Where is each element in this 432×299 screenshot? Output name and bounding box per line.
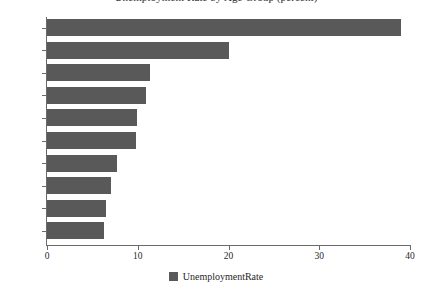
y-tick-mark [42, 231, 47, 232]
x-tick-mark [319, 246, 320, 250]
chart-legend: UnemploymentRate [0, 271, 432, 282]
legend-swatch-icon [169, 272, 178, 281]
bar-chart: Unemployment Rate by Age Group (percent)… [0, 0, 432, 299]
bar [47, 19, 401, 36]
x-tick-label: 0 [27, 251, 67, 261]
y-tick-mark [42, 141, 47, 142]
x-tick-label: 10 [118, 251, 158, 261]
bar [47, 64, 150, 81]
y-tick-mark [42, 186, 47, 187]
bar [47, 177, 111, 194]
bar [47, 200, 106, 217]
y-tick-mark [42, 95, 47, 96]
y-tick-mark [42, 163, 47, 164]
x-tick-mark [410, 246, 411, 250]
y-tick-mark [42, 118, 47, 119]
x-tick-mark [229, 246, 230, 250]
x-tick-mark [47, 246, 48, 250]
legend-label: UnemploymentRate [183, 271, 264, 282]
chart-title: Unemployment Rate by Age Group (percent) [0, 0, 432, 3]
bar [47, 87, 146, 104]
y-tick-mark [42, 28, 47, 29]
x-tick-label: 20 [209, 251, 249, 261]
x-tick-label: 40 [390, 251, 430, 261]
bar [47, 109, 137, 126]
bar [47, 42, 229, 59]
y-tick-mark [42, 208, 47, 209]
bar [47, 155, 117, 172]
bar [47, 222, 104, 239]
x-tick-mark [138, 246, 139, 250]
bar [47, 132, 136, 149]
y-tick-mark [42, 73, 47, 74]
y-tick-mark [42, 50, 47, 51]
x-tick-label: 30 [299, 251, 339, 261]
